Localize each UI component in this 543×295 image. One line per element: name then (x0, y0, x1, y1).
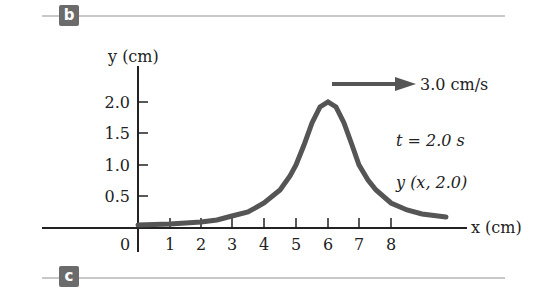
origin-label: 0 (120, 235, 130, 254)
wave-pulse-chart: 2.0 1.5 1.0 0.5 0 1 2 3 4 5 6 7 8 y (cm)… (0, 0, 543, 295)
time-label: t = 2.0 s (396, 131, 465, 150)
velocity-label: 3.0 cm/s (420, 75, 488, 94)
x-tick-label: 2 (196, 235, 206, 254)
curve-label: y (x, 2.0) (395, 173, 467, 192)
y-tick-label: 2.0 (105, 93, 130, 112)
y-tick-label: 1.0 (105, 156, 130, 175)
x-tick-label: 4 (259, 235, 269, 254)
arrow-head-icon (395, 77, 416, 91)
x-tick-label: 6 (323, 235, 333, 254)
wave-pulse-curve (138, 102, 446, 225)
x-tick-label: 8 (386, 235, 396, 254)
y-ticks (138, 102, 148, 196)
y-tick-label: 1.5 (105, 124, 130, 143)
x-axis-label: x (cm) (471, 218, 522, 237)
y-axis-label: y (cm) (107, 47, 159, 66)
x-tick-label: 5 (291, 235, 301, 254)
x-tick-label: 7 (354, 235, 364, 254)
x-tick-label: 1 (165, 235, 175, 254)
x-tick-label: 3 (227, 235, 237, 254)
y-tick-label: 0.5 (105, 187, 130, 206)
